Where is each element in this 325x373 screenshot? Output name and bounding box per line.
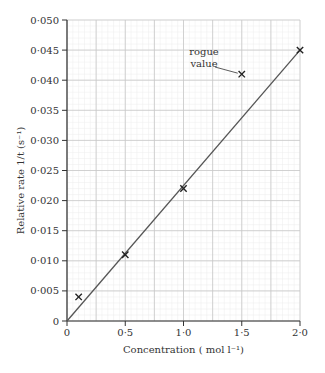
x-axis-title: Concentration ( mol l⁻¹) xyxy=(123,344,244,355)
annotation-text: value xyxy=(189,58,217,69)
y-tick-label: 0·050 xyxy=(30,15,59,26)
y-tick-label: 0·010 xyxy=(30,255,59,266)
y-tick-label: 0·030 xyxy=(30,135,59,146)
x-tick-label: 0 xyxy=(64,327,70,338)
y-tick-label: 0·020 xyxy=(30,195,59,206)
x-tick-label: 2·0 xyxy=(292,327,308,338)
x-tick-label: 1·0 xyxy=(176,327,192,338)
y-tick-label: 0 xyxy=(53,316,59,327)
x-tick-label: 0·5 xyxy=(117,327,133,338)
y-tick-label: 0·025 xyxy=(30,165,59,176)
annotation-text: rogue xyxy=(189,46,219,57)
y-tick-label: 0·015 xyxy=(30,225,59,236)
chart: 00·0050·0100·0150·0200·0250·0300·0350·04… xyxy=(0,0,325,373)
y-ticks: 00·0050·0100·0150·0200·0250·0300·0350·04… xyxy=(30,15,67,327)
x-tick-label: 1·5 xyxy=(234,327,250,338)
y-axis-title: Relative rate 1/t (s⁻¹) xyxy=(15,127,26,235)
y-tick-label: 0·005 xyxy=(30,285,59,296)
y-tick-label: 0·040 xyxy=(30,75,59,86)
y-tick-label: 0·035 xyxy=(30,105,59,116)
x-ticks: 00·51·01·52·0 xyxy=(64,321,308,338)
y-tick-label: 0·045 xyxy=(30,45,59,56)
